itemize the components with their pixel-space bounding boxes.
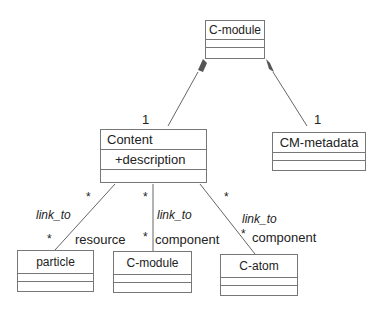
attributes-section <box>206 40 264 48</box>
association-name: link_to <box>36 208 71 222</box>
class-name: Content <box>101 130 206 150</box>
association-name: link_to <box>242 212 277 226</box>
class-name: C-module <box>206 21 264 40</box>
association-name: link_to <box>157 208 192 222</box>
multiplicity-star: * <box>143 190 148 204</box>
attributes-section <box>273 153 365 161</box>
operations-section <box>221 286 297 295</box>
composition-line-content <box>168 72 198 126</box>
class-cm-metadata[interactable]: CM-metadata <box>272 132 366 171</box>
multiplicity-star: * <box>241 227 246 241</box>
attributes-section <box>18 274 93 282</box>
operations-section <box>18 282 93 291</box>
multiplicity-content: 1 <box>142 112 149 127</box>
attributes-section <box>114 275 191 283</box>
operations-section <box>114 283 191 292</box>
multiplicity-star: * <box>143 230 148 244</box>
role-component: component <box>252 230 316 245</box>
composition-line-metadata <box>273 72 307 126</box>
multiplicity-star: * <box>224 190 229 204</box>
class-c-module-top[interactable]: C-module <box>205 20 265 59</box>
role-resource: resource <box>75 232 126 247</box>
composition-diamond-left-icon <box>198 59 207 72</box>
class-name: particle <box>18 251 93 274</box>
class-name: CM-metadata <box>273 133 365 153</box>
class-content[interactable]: Content +description <box>100 129 207 183</box>
attributes-section <box>221 278 297 286</box>
class-c-atom[interactable]: C-atom <box>220 254 298 296</box>
operations-section <box>101 170 206 182</box>
class-name: C-module <box>114 252 191 275</box>
multiplicity-star: * <box>47 232 52 246</box>
operations-section <box>206 48 264 58</box>
multiplicity-metadata: 1 <box>314 112 321 127</box>
class-name: C-atom <box>221 255 297 278</box>
multiplicity-star: * <box>86 190 91 204</box>
operations-section <box>273 161 365 170</box>
composition-diamond-right-icon <box>266 59 274 72</box>
class-c-module-bottom[interactable]: C-module <box>113 251 192 293</box>
class-attribute: +description <box>101 150 206 170</box>
class-particle[interactable]: particle <box>17 250 94 292</box>
role-component: component <box>155 232 219 247</box>
